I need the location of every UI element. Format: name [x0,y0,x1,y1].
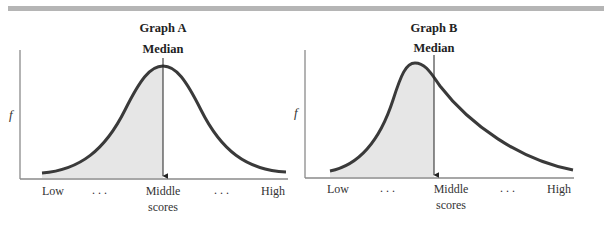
graph-a-curve [42,66,286,173]
graph-b-x-label: scores [436,198,466,213]
graph-a-tick-low: Low [42,184,64,199]
graph-b-median-label: Median [414,41,455,56]
graph-a-tick-dots-2: . . . [214,183,229,198]
graph-b-tick-dots-2: . . . [500,181,515,196]
graph-a-median-label: Median [143,42,184,57]
graph-a-tick-high: High [261,184,285,199]
graph-a-shaded-area [42,66,163,178]
graph-a-x-label: scores [148,200,178,215]
graph-b-shaded-area [330,63,434,177]
graph-a-tick-middle: Middle [146,184,181,199]
graph-b [305,50,574,178]
graph-b-tick-dots-1: . . . [380,181,395,196]
graph-a [20,50,288,179]
graph-b-title: Graph B [411,21,458,36]
graph-b-tick-high: High [547,182,571,197]
graph-a-y-label: f [9,107,13,123]
graph-b-tick-low: Low [327,182,349,197]
graph-b-y-label: f [294,105,298,121]
graph-a-tick-dots-1: . . . [92,183,107,198]
graph-b-tick-middle: Middle [434,182,469,197]
graph-a-title: Graph A [140,21,187,36]
